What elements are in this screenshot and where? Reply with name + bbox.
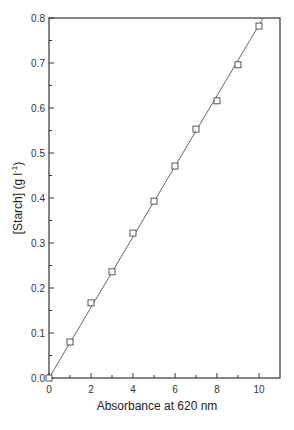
- y-tick-label: 0.7: [31, 58, 45, 69]
- y-tick-label: 0.1: [31, 328, 45, 339]
- x-tick-label: 6: [172, 384, 178, 395]
- x-tick-label: 2: [88, 384, 94, 395]
- x-tick-label: 10: [253, 384, 265, 395]
- y-axis-title-main: [Starch] (g l: [11, 173, 25, 234]
- axes: [49, 18, 280, 378]
- chart: 02468100.00.10.20.30.40.50.60.70.8 Absor…: [0, 0, 294, 430]
- data-point: [256, 23, 262, 29]
- y-tick-label: 0.8: [31, 13, 45, 24]
- y-tick-label: 0.4: [31, 193, 45, 204]
- y-tick-label: 0.3: [31, 238, 45, 249]
- data-point: [67, 339, 73, 345]
- x-tick-label: 8: [214, 384, 220, 395]
- ticks: 02468100.00.10.20.30.40.50.60.70.8: [31, 13, 265, 396]
- x-tick-label: 0: [46, 384, 52, 395]
- data-point: [151, 198, 157, 204]
- data-point: [88, 300, 94, 306]
- y-tick-label: 0.5: [31, 148, 45, 159]
- y-axis-title-suffix: ): [11, 162, 25, 166]
- data-point: [172, 163, 178, 169]
- data-point: [193, 126, 199, 132]
- data-point: [235, 62, 241, 68]
- x-axis-title: Absorbance at 620 nm: [97, 399, 218, 413]
- data-point: [130, 230, 136, 236]
- y-tick-label: 0.6: [31, 103, 45, 114]
- y-axis-title: [Starch] (g l-1): [10, 162, 25, 234]
- data-points: [46, 23, 262, 381]
- y-tick-label: 0.2: [31, 283, 45, 294]
- data-point: [109, 269, 115, 275]
- x-tick-label: 4: [130, 384, 136, 395]
- data-point: [46, 375, 52, 381]
- plot-frame: [49, 18, 280, 378]
- y-tick-label: 0.0: [31, 373, 45, 384]
- data-point: [214, 98, 220, 104]
